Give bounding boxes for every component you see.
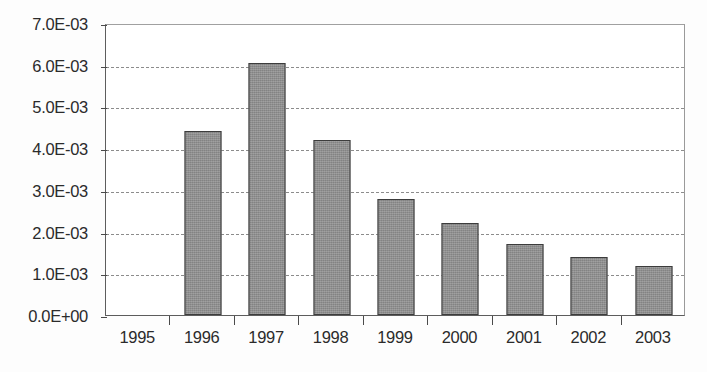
y-tick-label: 2.0E-03 xyxy=(32,223,88,242)
x-tick-mark xyxy=(427,316,428,325)
bar-slot xyxy=(622,25,686,315)
x-axis: 199519961997199819992000200120022003 xyxy=(105,328,685,358)
x-tick-label: 1998 xyxy=(313,328,349,347)
y-tick-label: 1.0E-03 xyxy=(32,265,88,284)
bar[interactable] xyxy=(313,140,350,315)
x-tick-mark xyxy=(492,316,493,325)
y-tick-label: 0.0E+00 xyxy=(28,307,88,326)
bar[interactable] xyxy=(571,257,608,315)
y-tick-label: 4.0E-03 xyxy=(32,140,88,159)
x-tick-label: 1999 xyxy=(377,328,413,347)
x-tick-mark xyxy=(621,316,622,325)
bar-slot xyxy=(235,25,299,315)
bar[interactable] xyxy=(377,199,414,315)
x-tick-mark xyxy=(234,316,235,325)
bar[interactable] xyxy=(184,131,221,315)
x-tick-label: 2003 xyxy=(635,328,671,347)
x-axis-tick-marks xyxy=(105,316,685,325)
x-tick-label: 1995 xyxy=(119,328,155,347)
x-tick-mark xyxy=(298,316,299,325)
bar-slot xyxy=(106,25,170,315)
plot-area xyxy=(105,24,685,316)
bar-slot xyxy=(299,25,363,315)
bar-slot xyxy=(428,25,492,315)
x-tick-label: 2001 xyxy=(506,328,542,347)
x-tick-mark xyxy=(556,316,557,325)
y-tick-label: 3.0E-03 xyxy=(32,181,88,200)
x-tick-label: 1997 xyxy=(248,328,284,347)
bar-slot xyxy=(170,25,234,315)
x-tick-label: 1996 xyxy=(184,328,220,347)
bar-slot xyxy=(493,25,557,315)
y-tick-label: 5.0E-03 xyxy=(32,98,88,117)
bar-slot xyxy=(364,25,428,315)
bar-chart: 0.0E+001.0E-032.0E-033.0E-034.0E-035.0E-… xyxy=(0,0,707,372)
y-tick-label: 6.0E-03 xyxy=(32,56,88,75)
x-tick-mark xyxy=(169,316,170,325)
bar[interactable] xyxy=(635,266,672,315)
bar[interactable] xyxy=(249,63,286,315)
x-tick-mark xyxy=(363,316,364,325)
x-tick-label: 2000 xyxy=(442,328,478,347)
bar[interactable] xyxy=(442,223,479,315)
y-tick-label: 7.0E-03 xyxy=(32,15,88,34)
x-tick-label: 2002 xyxy=(571,328,607,347)
bars-group xyxy=(106,25,684,315)
bar-slot xyxy=(557,25,621,315)
bar[interactable] xyxy=(506,244,543,315)
y-axis: 0.0E+001.0E-032.0E-033.0E-034.0E-035.0E-… xyxy=(0,0,96,372)
